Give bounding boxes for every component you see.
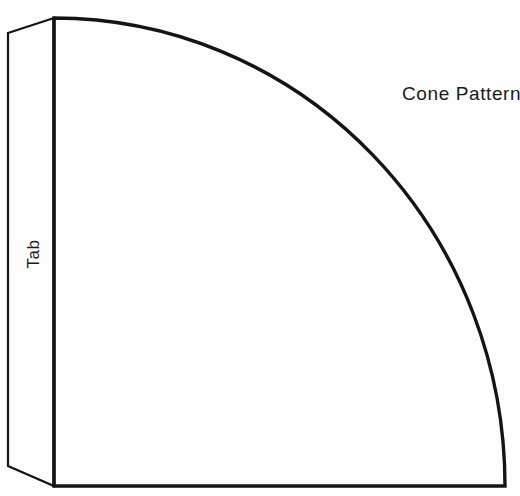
cone-pattern-title: Cone Pattern — [402, 83, 520, 105]
tab-label: Tab — [24, 239, 43, 268]
cone-pattern-canvas: Cone Pattern Tab — [0, 0, 520, 496]
cone-pattern-drawing — [0, 0, 520, 496]
